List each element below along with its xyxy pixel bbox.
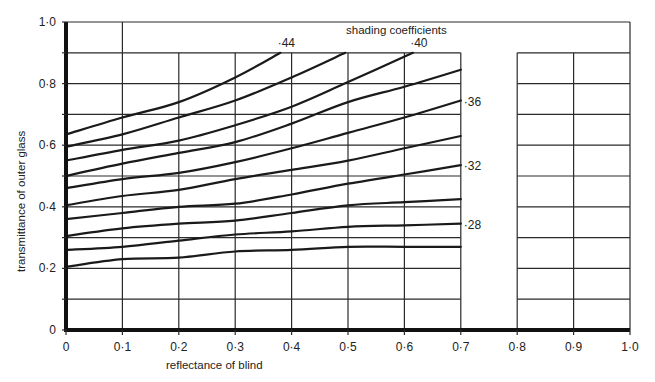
axes — [62, 22, 630, 335]
curve-sc42 — [66, 53, 345, 147]
curve-sc34 — [66, 136, 461, 205]
y-tick-label: 0·6 — [39, 138, 57, 152]
curve-sc40 — [66, 53, 413, 161]
shading-coefficient-curves — [66, 53, 461, 267]
curve-sc30 — [66, 199, 461, 236]
x-tick-label: 0·2 — [170, 340, 188, 354]
x-tick-label: 0·1 — [114, 340, 132, 354]
x-tick-label: 0·6 — [396, 340, 414, 354]
y-tick-label: 0·4 — [39, 200, 57, 214]
x-tick-label: 1·0 — [621, 340, 639, 354]
x-axis-title: reflectance of blind — [166, 359, 263, 371]
x-tick-label: 0·9 — [565, 340, 583, 354]
curve-label: ·44 — [278, 36, 296, 50]
curve-sc38 — [66, 70, 461, 176]
y-tick-label: 1·0 — [39, 15, 57, 29]
curve-label: ·36 — [464, 95, 482, 109]
x-tick-label: 0·8 — [509, 340, 527, 354]
curve-label: ·28 — [464, 218, 482, 232]
y-axis-title: transmittance of outer glass — [15, 130, 27, 272]
y-tick-label: 0·8 — [39, 77, 57, 91]
x-tick-label: 0·7 — [452, 340, 470, 354]
y-tick-label: 0 — [49, 323, 56, 337]
y-tick-label: 0·2 — [39, 261, 57, 275]
chart-title: shading coefficients — [346, 24, 447, 36]
y-tick-labels: 00·20·40·60·81·0 — [39, 15, 57, 337]
curve-label: ·40 — [410, 36, 428, 50]
x-tick-labels: 00·10·20·30·40·50·60·70·80·91·0 — [63, 340, 639, 354]
x-tick-label: 0 — [63, 340, 70, 354]
x-tick-label: 0·4 — [283, 340, 301, 354]
x-tick-label: 0·3 — [227, 340, 245, 354]
curve-label: ·32 — [464, 159, 482, 173]
chart: 00·10·20·30·40·50·60·70·80·91·0 00·20·40… — [0, 0, 655, 382]
curve-sc26 — [66, 247, 461, 267]
x-tick-label: 0·5 — [339, 340, 357, 354]
